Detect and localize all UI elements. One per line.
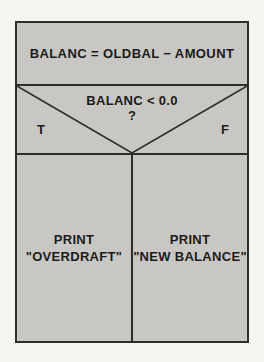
false-branch-cell: PRINT "NEW BALANCE" bbox=[131, 155, 247, 341]
true-label: T bbox=[37, 122, 45, 137]
false-branch-line2: "NEW BALANCE" bbox=[133, 248, 247, 265]
false-branch-text: PRINT "NEW BALANCE" bbox=[133, 231, 247, 265]
true-branch-line1: PRINT bbox=[26, 231, 123, 248]
decision-question-mark: ? bbox=[17, 108, 247, 123]
decision-condition: BALANC < 0.0 bbox=[17, 93, 247, 108]
false-branch-line1: PRINT bbox=[133, 231, 247, 248]
branches-row: PRINT "OVERDRAFT" PRINT "NEW BALANCE" bbox=[17, 155, 247, 341]
true-branch-cell: PRINT "OVERDRAFT" bbox=[17, 155, 131, 341]
decision-row: BALANC < 0.0 ? T F bbox=[17, 86, 247, 155]
false-label: F bbox=[221, 122, 229, 137]
scanned-page: BALANC = OLDBAL − AMOUNT BALANC < 0.0 ? … bbox=[0, 0, 264, 362]
true-branch-text: PRINT "OVERDRAFT" bbox=[26, 231, 123, 265]
statement-text: BALANC = OLDBAL − AMOUNT bbox=[30, 46, 235, 61]
true-branch-line2: "OVERDRAFT" bbox=[26, 248, 123, 265]
statement-row: BALANC = OLDBAL − AMOUNT bbox=[17, 23, 247, 86]
decision-text: BALANC < 0.0 ? bbox=[17, 93, 247, 123]
structogram-box: BALANC = OLDBAL − AMOUNT BALANC < 0.0 ? … bbox=[15, 21, 249, 343]
